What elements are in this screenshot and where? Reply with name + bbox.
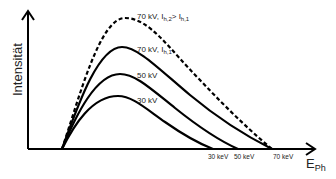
y-axis-label: Intensität bbox=[10, 43, 25, 96]
bremsstrahlung-spectrum-diagram: Intensität 70 kV, Ih,2> Ih,1 70 kV, Ih,1… bbox=[0, 0, 336, 179]
label-30kv: 30 kV bbox=[137, 96, 158, 105]
x-axis-label: EPh bbox=[306, 156, 326, 173]
curve-70kv-low-current bbox=[62, 47, 272, 149]
tick-30kev: 30 keV bbox=[208, 153, 229, 160]
label-70kv-high-current: 70 kV, Ih,2> Ih,1 bbox=[137, 12, 190, 22]
tick-70kev: 70 keV bbox=[273, 153, 294, 160]
label-70kv-low-current: 70 kV, Ih,1 bbox=[137, 45, 172, 55]
label-50kv: 50 kV bbox=[137, 71, 158, 80]
tick-50kev: 50 keV bbox=[234, 153, 255, 160]
curve-70kv-high-current bbox=[62, 18, 272, 149]
